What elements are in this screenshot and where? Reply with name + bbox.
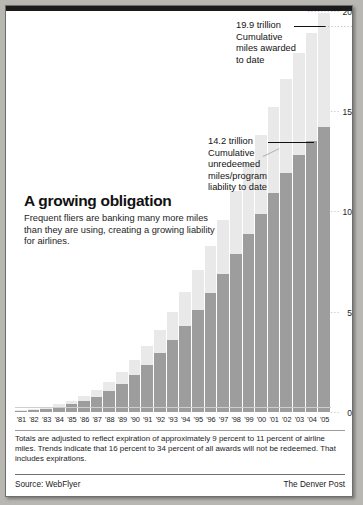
bar-segment-unredeemed [268, 193, 280, 412]
x-axis-labels: '81'82'83'84'85'86'87'88'89'90'91'92'93'… [15, 414, 331, 426]
footnote-text: Totals are adjusted to reflect expiratio… [15, 434, 347, 465]
bar-84 [53, 404, 65, 412]
bar-98 [230, 191, 242, 412]
bar-segment-unredeemed [205, 293, 217, 412]
bar-segment-unredeemed [141, 365, 153, 412]
bar-segment-unredeemed [103, 391, 115, 412]
bar-segment-unredeemed [293, 155, 305, 412]
bar-99 [243, 163, 255, 412]
bar-81 [15, 410, 27, 412]
y-tick-leader: ··· [330, 207, 340, 217]
bar-96 [205, 246, 217, 412]
bar-segment-unredeemed [243, 234, 255, 412]
headline-block: A growing obligation Frequent fliers are… [24, 192, 220, 248]
bar-segment-unredeemed [318, 127, 330, 412]
axis-baseline [15, 407, 331, 408]
y-axis-tick-5: ···5 [330, 307, 352, 317]
bar-segment-unredeemed [91, 397, 103, 412]
annotation-mid-line5: liability to date [208, 182, 292, 194]
bar-94 [179, 292, 191, 412]
bar-05 [318, 13, 330, 412]
bar-segment-unredeemed [179, 326, 191, 412]
y-axis-tick-20: ··········20 [307, 6, 352, 16]
y-axis-tick-0: ···0 [330, 407, 352, 417]
y-tick-label: 20 [340, 7, 352, 17]
bar-02 [280, 79, 292, 412]
bar-91 [141, 346, 153, 412]
y-tick-label: 15 [340, 107, 352, 117]
headline-subtitle: Frequent fliers are banking many more mi… [24, 213, 220, 248]
bar-97 [217, 220, 229, 412]
bar-segment-unredeemed [230, 254, 242, 412]
bar-segment-unredeemed [66, 404, 78, 412]
footnote-divider [15, 430, 345, 431]
bar-87 [91, 390, 103, 412]
y-tick-leader: ·········· [307, 7, 340, 17]
y-tick-leader: ··· [330, 308, 340, 318]
annotation-top-line4: to date [236, 55, 332, 67]
bar-segment-unredeemed [255, 214, 267, 412]
bar-segment-unredeemed [28, 410, 40, 412]
y-axis-tick-15: ···15 [330, 106, 352, 116]
y-tick-label: 10 [340, 207, 352, 217]
x-axis-tick-05: '05 [317, 414, 333, 426]
annotation-mid-line3: unredeemed [208, 159, 292, 171]
annotation-unredeemed-miles: 14.2 trillion Cumulative unredeemed mile… [208, 136, 292, 194]
bar-82 [28, 409, 40, 412]
bar-segment-unredeemed [154, 353, 166, 412]
annotation-leader-line-top [294, 26, 326, 27]
annotation-leader-dots-top: ········· [324, 22, 353, 31]
source-divider [15, 474, 345, 475]
bar-segment-unredeemed [40, 409, 52, 412]
annotation-top-line2: Cumulative [236, 32, 332, 44]
bar-89 [116, 372, 128, 412]
y-tick-label: 0 [340, 408, 352, 418]
y-tick-label: 5 [340, 308, 352, 318]
bar-92 [154, 330, 166, 412]
bar-segment-unredeemed [217, 274, 229, 412]
bar-95 [192, 270, 204, 412]
bar-segment-unredeemed [192, 310, 204, 412]
y-axis-tick-10: ···10 [330, 207, 352, 217]
source-bar: Source: WebFlyer The Denver Post [15, 478, 345, 492]
bar-segment-unredeemed [306, 141, 318, 412]
bar-segment-unredeemed [167, 340, 179, 412]
page-title: A growing obligation [24, 192, 220, 209]
bar-86 [78, 396, 90, 412]
annotation-top-line3: miles awarded [236, 43, 332, 55]
bar-03 [293, 53, 305, 412]
chart-figure: ···0···5···10···15··········20 '81'82'83… [5, 5, 353, 497]
y-tick-leader: ··· [330, 107, 340, 117]
bar-90 [129, 360, 141, 412]
source-credit: Source: WebFlyer [15, 478, 80, 492]
bar-93 [167, 312, 179, 412]
publisher-credit: The Denver Post [284, 478, 345, 492]
annotation-mid-line4: miles/program [208, 171, 292, 183]
bar-segment-unredeemed [15, 411, 27, 412]
bar-segment-unredeemed [280, 173, 292, 412]
annotation-mid-line2: Cumulative [208, 148, 292, 160]
bar-04 [306, 33, 318, 412]
annotation-leader-line-mid [268, 142, 314, 143]
